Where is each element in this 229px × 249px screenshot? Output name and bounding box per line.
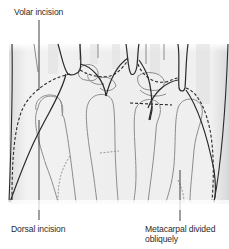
hand-illustration bbox=[0, 0, 229, 249]
hand-skin bbox=[9, 44, 229, 204]
volar-incision-label: Volar incision bbox=[14, 7, 63, 17]
bottom-fade bbox=[0, 200, 229, 210]
hand-drawing bbox=[0, 0, 229, 249]
dorsal-incision-label: Dorsal incision bbox=[11, 224, 65, 234]
metacarpal-divided-label: Metacarpal divided obliquely bbox=[145, 224, 225, 244]
